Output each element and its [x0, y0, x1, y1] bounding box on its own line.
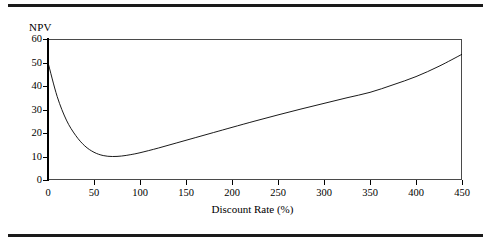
y-axis-title: NPV	[29, 21, 52, 33]
top-horizontal-rule	[8, 4, 483, 7]
npv-curve	[48, 39, 462, 180]
x-tick-label: 0	[25, 188, 71, 199]
x-tick-mark	[278, 180, 279, 185]
y-tick-label: 0	[14, 175, 42, 186]
x-tick-label: 100	[117, 188, 163, 199]
x-tick-label: 300	[301, 188, 347, 199]
x-tick-label: 250	[255, 188, 301, 199]
x-tick-label: 150	[163, 188, 209, 199]
x-tick-mark	[186, 180, 187, 185]
x-tick-label: 200	[209, 188, 255, 199]
y-tick-label: 10	[14, 152, 42, 163]
figure-page: NPV 0102030405060 0501001502002503003504…	[0, 0, 491, 247]
y-tick-mark	[43, 180, 48, 181]
x-tick-mark	[416, 180, 417, 185]
npv-curve-path	[48, 54, 462, 156]
bottom-horizontal-rule	[8, 234, 483, 237]
x-axis-title-text: Discount Rate (%)	[212, 203, 294, 215]
x-axis-title: Discount Rate (%)	[0, 203, 491, 215]
x-tick-mark	[324, 180, 325, 185]
x-tick-mark	[462, 180, 463, 185]
x-tick-label: 450	[439, 188, 485, 199]
y-tick-label: 40	[14, 81, 42, 92]
y-tick-label: 20	[14, 128, 42, 139]
x-tick-label: 400	[393, 188, 439, 199]
x-tick-mark	[232, 180, 233, 185]
x-tick-mark	[140, 180, 141, 185]
y-tick-label: 30	[14, 105, 42, 116]
y-tick-label: 50	[14, 58, 42, 69]
x-tick-mark	[94, 180, 95, 185]
x-tick-label: 350	[347, 188, 393, 199]
npv-chart-figure: NPV 0102030405060 0501001502002503003504…	[0, 12, 491, 232]
x-tick-label: 50	[71, 188, 117, 199]
y-tick-label: 60	[14, 34, 42, 45]
x-tick-mark	[370, 180, 371, 185]
